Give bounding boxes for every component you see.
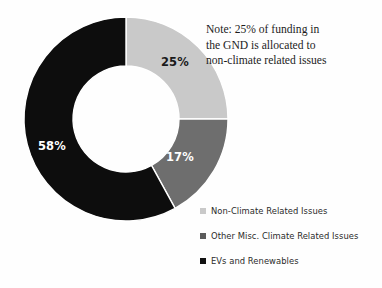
donut-slice-value-label: 17% <box>166 150 194 164</box>
chart-legend: Non-Climate Related Issues Other Misc. C… <box>200 198 382 273</box>
legend-item-label: Other Misc. Climate Related Issues <box>211 231 358 241</box>
donut-slices <box>24 17 228 221</box>
legend-item-label: Non-Climate Related Issues <box>211 206 327 216</box>
legend-item[interactable]: EVs and Renewables <box>200 248 382 273</box>
legend-item[interactable]: Non-Climate Related Issues <box>200 198 382 223</box>
chart-note: Note: 25% of funding in the GND is alloc… <box>206 22 378 69</box>
donut-slice-value-label: 25% <box>161 55 189 69</box>
legend-swatch-icon <box>200 258 206 264</box>
donut-slice-value-label: 58% <box>38 139 66 153</box>
legend-item[interactable]: Other Misc. Climate Related Issues <box>200 223 382 248</box>
chart-note-line-1: Note: 25% of funding in <box>206 22 378 38</box>
donut-chart-figure: 25%17%58% Note: 25% of funding in the GN… <box>0 0 382 288</box>
legend-swatch-icon <box>200 233 206 239</box>
legend-item-label: EVs and Renewables <box>211 256 299 266</box>
chart-note-line-3: non-climate related issues <box>206 53 378 69</box>
chart-note-line-2: the GND is allocated to <box>206 38 378 54</box>
legend-swatch-icon <box>200 208 206 214</box>
